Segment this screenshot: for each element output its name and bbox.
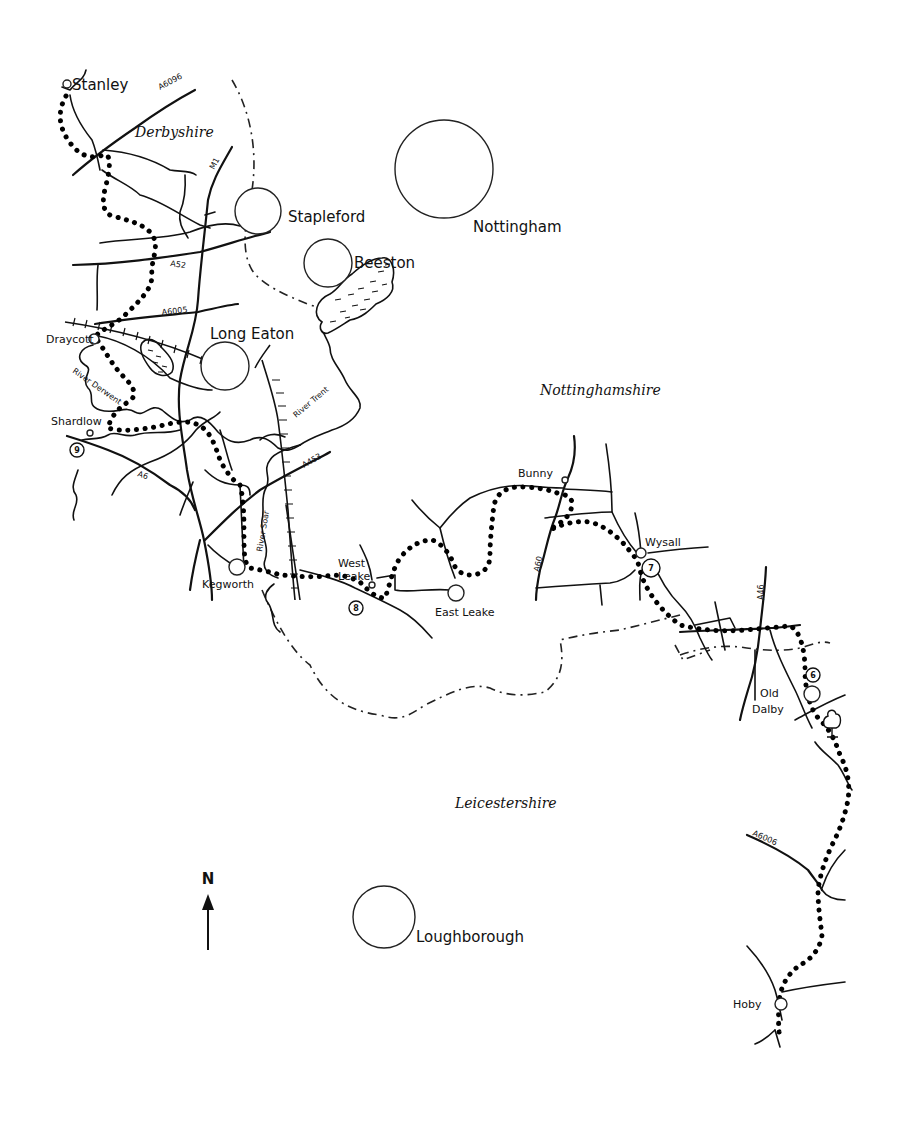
label-road-a46: A46 (757, 584, 766, 600)
stage-7: 7 (648, 564, 654, 573)
label-road-a6096: A6096 (157, 72, 184, 92)
label-nottingham: Nottingham (473, 218, 562, 236)
road-a6 (67, 436, 195, 510)
north-arrow: N (202, 870, 215, 950)
tree-icon (824, 710, 841, 737)
town-circle-beeston (304, 239, 352, 287)
label-old-dalby-line2: Dalby (752, 703, 784, 716)
route-map: 9 8 7 6 N Derbyshire Nottinghamshire Lei… (0, 0, 901, 1121)
lakes (141, 258, 394, 376)
town-circle-hoby (775, 998, 787, 1010)
label-road-a60: A60 (532, 555, 544, 572)
label-wysall: Wysall (645, 536, 681, 549)
river-derwent-lower (82, 430, 180, 440)
stage-9: 9 (74, 446, 80, 455)
town-circle-long-eaton (201, 342, 249, 390)
label-stanley: Stanley (72, 76, 128, 94)
label-loughborough: Loughborough (416, 928, 524, 946)
town-circle-wysall (636, 548, 646, 558)
town-circle-kegworth (229, 559, 245, 575)
town-circle-stanley (63, 80, 71, 88)
label-river-derwent: River Derwent (71, 366, 123, 406)
label-hoby: Hoby (733, 998, 762, 1011)
town-circle-old-dalby (804, 686, 820, 702)
railways (65, 318, 300, 600)
label-beeston: Beeston (354, 254, 415, 272)
stage-6: 6 (810, 671, 816, 680)
stage-markers: 9 8 7 6 (70, 443, 820, 682)
label-river-trent: River Trent (292, 385, 331, 420)
north-arrow-icon (202, 894, 214, 910)
walking-route (60, 96, 848, 1040)
label-long-eaton: Long Eaton (210, 325, 294, 343)
town-circle-shardlow (87, 430, 93, 436)
town-circle-loughborough (353, 886, 415, 948)
label-road-a6005: A6005 (161, 305, 188, 317)
county-nottinghamshire: Nottinghamshire (539, 382, 661, 398)
river-wiggle-9 (73, 470, 78, 520)
label-road-a453: A453 (301, 452, 323, 470)
town-circle-east-leake (448, 585, 464, 601)
label-shardlow: Shardlow (51, 415, 102, 428)
label-kegworth: Kegworth (202, 578, 254, 591)
label-east-leake: East Leake (435, 606, 495, 619)
county-leicestershire: Leicestershire (454, 795, 557, 811)
label-old-dalby-line1: Old (760, 687, 779, 700)
town-circle-nottingham (395, 120, 493, 218)
river-trent (300, 322, 360, 445)
county-derbyshire: Derbyshire (134, 124, 214, 140)
label-stapleford: Stapleford (288, 208, 365, 226)
label-road-a6006: A6006 (751, 829, 778, 848)
label-bunny: Bunny (518, 467, 553, 480)
stage-8: 8 (353, 604, 359, 613)
label-road-a52: A52 (170, 259, 187, 270)
label-west-leake-line1: West (338, 557, 366, 570)
label-draycott: Draycott (46, 333, 94, 346)
route-dots (60, 96, 848, 1040)
river-trent-west (260, 434, 285, 440)
town-circle-bunny (562, 477, 568, 483)
north-label: N (202, 870, 215, 888)
town-circle-stapleford (235, 188, 281, 234)
label-road-a6: A6 (136, 469, 149, 481)
road-a6006 (747, 835, 822, 890)
label-west-leake-line2: Leake (338, 570, 370, 583)
label-river-soar: River Soar (255, 509, 271, 552)
